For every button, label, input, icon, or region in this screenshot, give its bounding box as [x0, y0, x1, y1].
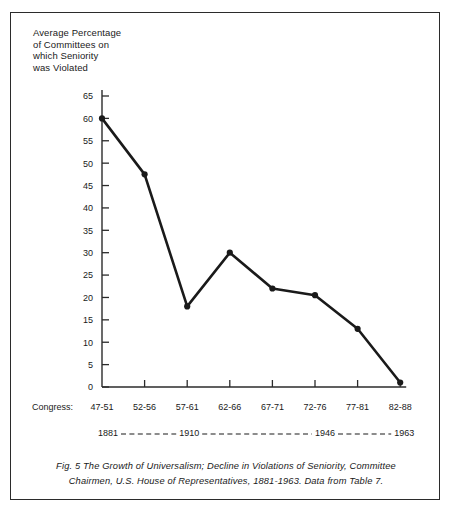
- x-axis-category-row: Congress: 47-5152-5657-6162-6667-7172-76…: [11, 402, 441, 416]
- x-axis-category-label: 82-88: [389, 402, 412, 412]
- x-axis-category-label: 47-51: [90, 402, 113, 412]
- y-axis-tick-label: 15: [83, 315, 93, 325]
- year-scale-connectors: [11, 428, 441, 442]
- data-point-marker: [269, 285, 275, 291]
- x-axis-category-label: 77-81: [346, 402, 369, 412]
- y-axis-tick-label: 5: [88, 360, 93, 370]
- data-point-marker: [142, 171, 148, 177]
- data-point-marker: [397, 379, 403, 385]
- data-point-marker: [355, 326, 361, 332]
- y-axis-tick-label: 0: [88, 382, 93, 392]
- y-axis-tick-label: 40: [83, 203, 93, 213]
- y-axis-tick-label: 50: [83, 159, 93, 169]
- x-axis-category-label: 67-71: [261, 402, 284, 412]
- data-point-marker: [184, 303, 190, 309]
- x-axis-category-label: 57-61: [176, 402, 199, 412]
- data-series-line: [102, 118, 400, 382]
- data-point-marker: [312, 292, 318, 298]
- y-axis-tick-label: 35: [83, 226, 93, 236]
- x-axis-category-label: 52-56: [133, 402, 156, 412]
- y-axis-tick-label: 60: [83, 114, 93, 124]
- y-axis-tick-label: 45: [83, 181, 93, 191]
- figure-caption: Fig. 5 The Growth of Universalism; Decli…: [37, 459, 415, 489]
- y-axis-tick-label: 30: [83, 248, 93, 258]
- y-axis-tick-label: 25: [83, 270, 93, 280]
- y-axis-tick-label: 10: [83, 338, 93, 348]
- y-axis-tick-label: 65: [83, 91, 93, 101]
- x-axis-category-label: 62-66: [218, 402, 241, 412]
- y-axis-tick-label: 20: [83, 293, 93, 303]
- figure-frame: Average Percentage of Committees on whic…: [10, 12, 440, 500]
- data-point-marker: [227, 250, 233, 256]
- congress-row-label: Congress:: [32, 402, 73, 412]
- y-axis-tick-label: 55: [83, 136, 93, 146]
- year-scale-row: 1881191019461963: [11, 428, 441, 442]
- data-point-marker: [99, 115, 105, 121]
- x-axis-category-label: 72-76: [303, 402, 326, 412]
